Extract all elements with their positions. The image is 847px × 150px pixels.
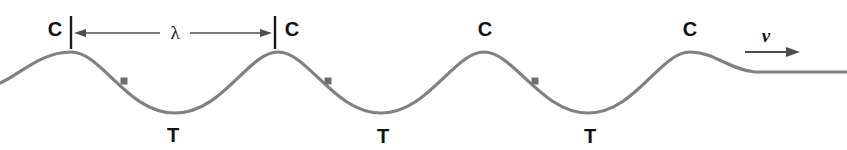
trough-label-2: T <box>377 126 389 146</box>
wavelength-arrow-left-head <box>74 29 86 37</box>
wave-diagram: C C C C T T T λ v <box>0 0 847 150</box>
crest-label-3: C <box>478 19 492 39</box>
particle-dot-1 <box>121 78 128 85</box>
crest-label-4: C <box>683 19 697 39</box>
particle-dot-3 <box>532 78 539 85</box>
particle-dot-2 <box>325 78 332 85</box>
crest-label-2: C <box>285 19 299 39</box>
velocity-label: v <box>762 26 770 45</box>
wavelength-label: λ <box>170 23 179 42</box>
trough-label-1: T <box>167 125 179 145</box>
trough-label-3: T <box>584 126 596 146</box>
crest-label-1: C <box>48 19 62 39</box>
velocity-arrow-head <box>786 47 800 57</box>
wave-graphic <box>0 0 847 150</box>
wavelength-arrow-right-head <box>260 29 272 37</box>
